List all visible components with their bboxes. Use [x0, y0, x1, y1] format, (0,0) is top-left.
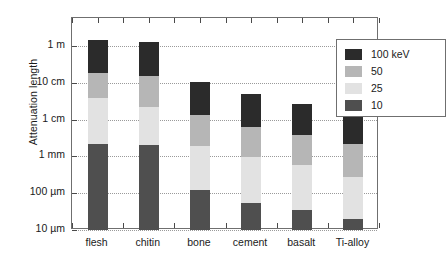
x-tick-mark [353, 18, 354, 23]
bar-segment-cement-50[interactable] [241, 127, 261, 157]
bar-segment-chitin-50[interactable] [139, 76, 159, 107]
bar-segment-basalt-25[interactable] [292, 165, 312, 209]
legend-label: 10 [371, 100, 383, 111]
x-tick-mark [226, 18, 227, 23]
plot-area: 100 keV502510 [71, 17, 378, 229]
y-axis-title: Attenuation length [27, 7, 39, 197]
legend-item[interactable]: 50 [345, 63, 445, 80]
x-tick-mark [200, 18, 201, 23]
bar-cement[interactable] [241, 94, 261, 229]
legend-label: 50 [371, 66, 383, 77]
y-tick-mark [72, 230, 77, 231]
y-tick-mark [72, 156, 77, 157]
gridline [72, 120, 377, 121]
bar-segment-Ti-alloy-25[interactable] [343, 177, 363, 219]
legend-swatch-icon [345, 49, 362, 60]
bar-segment-flesh-25[interactable] [88, 98, 108, 144]
x-tick-mark [328, 18, 329, 23]
bar-segment-Ti-alloy-50[interactable] [343, 144, 363, 177]
bar-flesh[interactable] [88, 40, 108, 230]
y-tick-label: 10 cm [0, 75, 65, 87]
bar-segment-cement-10[interactable] [241, 203, 261, 230]
gridline [72, 156, 377, 157]
x-tick-mark [98, 18, 99, 23]
bar-segment-basalt-10[interactable] [292, 210, 312, 230]
bar-segment-bone-25[interactable] [190, 146, 210, 190]
x-tick-mark [174, 223, 175, 228]
y-tick-mark [72, 193, 77, 194]
bar-segment-flesh-10[interactable] [88, 144, 108, 230]
y-tick-mark [72, 46, 77, 47]
y-tick-label: 1 cm [0, 112, 65, 124]
x-tick-mark [277, 223, 278, 228]
y-tick-label: 1 mm [0, 148, 65, 160]
x-tick-mark [174, 18, 175, 23]
x-tick-mark [72, 223, 73, 228]
x-tick-label: flesh [85, 236, 107, 248]
bar-segment-basalt-50[interactable] [292, 135, 312, 165]
legend-item[interactable]: 100 keV [345, 46, 445, 63]
bar-chitin[interactable] [139, 42, 159, 229]
x-tick-mark [379, 223, 380, 228]
x-tick-mark [379, 18, 380, 23]
gridline [72, 230, 377, 231]
y-tick-label: 10 µm [0, 222, 65, 234]
bar-segment-bone-50[interactable] [190, 115, 210, 147]
x-tick-label: chitin [135, 236, 160, 248]
bar-segment-chitin-10[interactable] [139, 145, 159, 230]
bar-segment-bone-100-keV[interactable] [190, 82, 210, 114]
bar-segment-bone-10[interactable] [190, 190, 210, 229]
bar-segment-basalt-100-keV[interactable] [292, 104, 312, 136]
y-tick-mark [72, 83, 77, 84]
legend-item[interactable]: 10 [345, 97, 445, 114]
x-tick-label: bone [187, 236, 210, 248]
bar-segment-chitin-100-keV[interactable] [139, 42, 159, 75]
x-tick-label: cement [233, 236, 267, 248]
x-tick-mark [328, 223, 329, 228]
bar-segment-flesh-50[interactable] [88, 73, 108, 98]
y-tick-label: 100 µm [0, 185, 65, 197]
legend-swatch-icon [345, 100, 362, 111]
gridline [72, 83, 377, 84]
bar-Ti-alloy[interactable] [343, 111, 363, 230]
x-tick-label: Ti-alloy [336, 236, 369, 248]
x-tick-mark [123, 18, 124, 23]
legend: 100 keV502510 [336, 39, 446, 117]
bar-segment-chitin-25[interactable] [139, 107, 159, 145]
y-tick-label: 1 m [0, 38, 65, 50]
bar-segment-cement-25[interactable] [241, 157, 261, 203]
x-tick-mark [149, 18, 150, 23]
gridline [72, 46, 377, 47]
x-tick-mark [302, 18, 303, 23]
bar-segment-flesh-100-keV[interactable] [88, 40, 108, 73]
x-tick-mark [277, 18, 278, 23]
x-tick-mark [251, 18, 252, 23]
x-tick-mark [72, 18, 73, 23]
x-tick-label: basalt [287, 236, 315, 248]
legend-item[interactable]: 25 [345, 80, 445, 97]
x-tick-mark [123, 223, 124, 228]
legend-swatch-icon [345, 83, 362, 94]
bar-basalt[interactable] [292, 104, 312, 230]
legend-swatch-icon [345, 66, 362, 77]
x-tick-mark [226, 223, 227, 228]
legend-label: 25 [371, 83, 383, 94]
bar-segment-cement-100-keV[interactable] [241, 94, 261, 126]
legend-label: 100 keV [371, 49, 410, 60]
y-tick-mark [72, 120, 77, 121]
bar-bone[interactable] [190, 82, 210, 229]
gridline [72, 193, 377, 194]
bar-segment-Ti-alloy-10[interactable] [343, 219, 363, 230]
